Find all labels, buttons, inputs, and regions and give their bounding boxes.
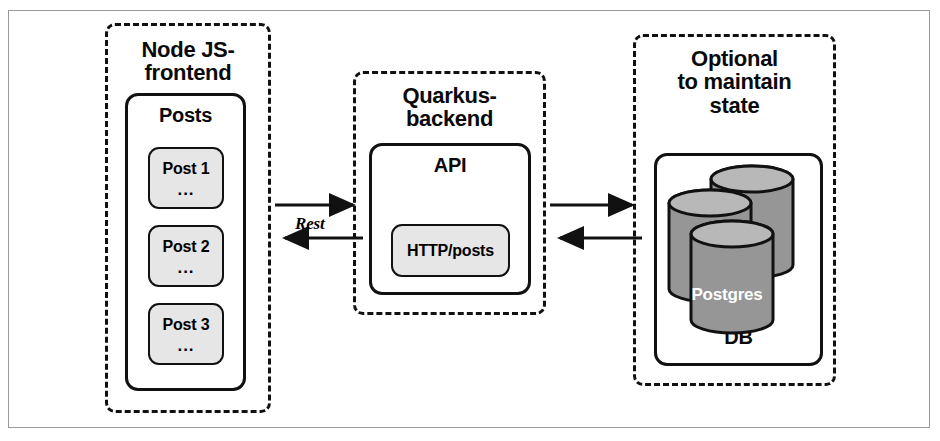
posts-container-title: Posts: [128, 104, 243, 127]
diagram-outer-frame: Node JS- frontend Posts Post 1 ... Post …: [8, 10, 930, 428]
db-cylinder-front: [691, 221, 773, 333]
post-item[interactable]: Post 3 ...: [148, 303, 224, 365]
post-item-dots: ...: [177, 184, 194, 196]
post-item[interactable]: Post 1 ...: [148, 147, 224, 209]
postgres-cylinder-stack: Postgres: [664, 163, 814, 353]
database-title-line2: to maintain: [677, 69, 791, 94]
postgres-cylinder-label: Postgres: [652, 285, 802, 305]
backend-panel-title: Quarkus- backend: [356, 84, 543, 131]
post-item-label: Post 2: [163, 238, 210, 256]
frontend-panel-title: Node JS- frontend: [108, 38, 268, 85]
backend-title-line2: backend: [406, 106, 493, 131]
http-posts-endpoint[interactable]: HTTP/posts: [391, 224, 510, 277]
rest-connection-label: Rest: [295, 214, 324, 234]
post-item-label: Post 1: [163, 160, 210, 178]
database-title-line3: state: [710, 93, 760, 118]
backend-title-line1: Quarkus-: [402, 83, 496, 108]
post-item[interactable]: Post 2 ...: [148, 225, 224, 287]
database-panel-title: Optional to maintain state: [636, 47, 833, 117]
frontend-title-line2: frontend: [145, 60, 232, 85]
post-item-dots: ...: [177, 262, 194, 274]
post-item-dots: ...: [177, 340, 194, 352]
backend-db-arrows: [548, 191, 644, 255]
post-item-label: Post 3: [163, 316, 210, 334]
http-posts-label: HTTP/posts: [407, 242, 494, 260]
api-container-title: API: [372, 154, 528, 177]
database-title-line1: Optional: [691, 46, 778, 71]
frontend-title-line1: Node JS-: [142, 37, 235, 62]
